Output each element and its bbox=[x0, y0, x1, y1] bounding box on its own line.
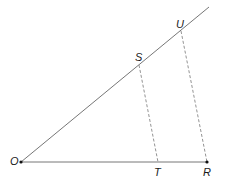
point-o-dot bbox=[19, 160, 22, 163]
point-r-dot bbox=[205, 160, 208, 163]
label-o: O bbox=[10, 155, 19, 167]
label-t: T bbox=[154, 166, 162, 178]
label-u: U bbox=[176, 18, 184, 30]
dashed-segment-s-t bbox=[139, 65, 158, 162]
ray-o-u bbox=[21, 7, 209, 162]
dashed-segment-u-r bbox=[181, 31, 207, 162]
geometry-diagram: O S U T R bbox=[0, 0, 225, 183]
label-r: R bbox=[203, 166, 211, 178]
label-s: S bbox=[135, 51, 143, 63]
